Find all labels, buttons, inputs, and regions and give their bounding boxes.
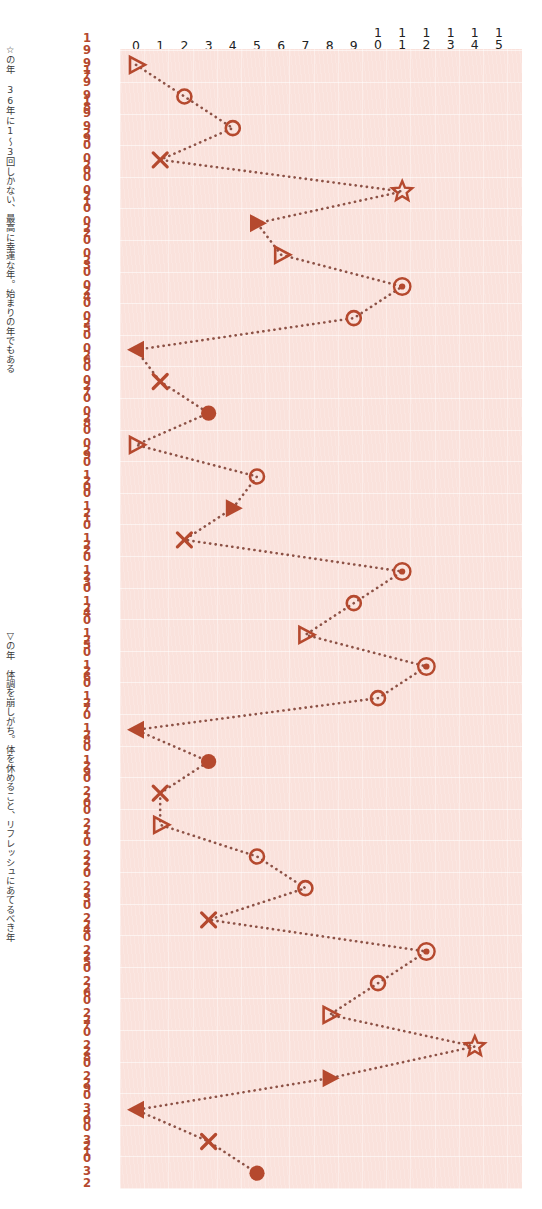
legend-note-star: ☆の年 36年に1〜3回しかない、最高に幸運な年。始まりの年でもある [5, 44, 15, 374]
data-point-double-circle-icon [394, 278, 410, 294]
value-axis: 0123456789101112131415 [116, 6, 536, 50]
x-tick-label: 12 [419, 25, 434, 50]
data-point-open-circle-icon [226, 121, 240, 135]
data-point-filled-triangle-left-icon [127, 721, 144, 739]
series-line-and-markers [120, 49, 522, 1189]
year-label: 2032 [58, 1157, 116, 1189]
data-point-open-triangle-right-icon [130, 57, 145, 73]
data-point-filled-circle-icon [249, 1166, 264, 1181]
x-tick-label: 10 [371, 25, 386, 50]
data-point-double-circle-icon [418, 943, 434, 959]
data-point-double-circle-icon [394, 563, 410, 579]
data-point-open-circle-icon [347, 311, 361, 325]
x-tick-label: 15 [492, 25, 507, 50]
chart-canvas: ☆の年 36年に1〜3回しかない、最高に幸運な年。始まりの年でもある ▽の年 体… [0, 0, 542, 1209]
series-line [136, 65, 475, 1173]
data-point-cross-icon [177, 533, 191, 547]
data-point-cross-icon [202, 1135, 216, 1149]
data-point-filled-triangle-right-icon [226, 499, 243, 517]
x-tick-label: 14 [467, 25, 482, 50]
data-point-open-circle-icon [177, 90, 191, 104]
data-point-filled-triangle-right-icon [323, 1069, 340, 1087]
legend-note-triangle: ▽の年 体調を崩しがち。体を休めること、リフレッシュにあてるべき年 [5, 630, 15, 942]
data-point-filled-triangle-right-icon [250, 214, 267, 232]
x-tick-label: 11 [395, 25, 410, 50]
data-point-filled-circle-icon [201, 754, 216, 769]
data-point-cross-icon [202, 913, 216, 927]
x-tick-label: 13 [443, 25, 458, 50]
data-point-filled-circle-icon [201, 406, 216, 421]
plot-area [120, 49, 522, 1189]
data-point-filled-triangle-left-icon [127, 1101, 144, 1119]
data-point-cross-icon [153, 153, 167, 167]
year-axis: 1997199819992000200120022003200420052006… [58, 49, 116, 1189]
data-point-star-icon [392, 181, 412, 200]
data-point-open-triangle-right-icon [275, 247, 290, 263]
data-point-filled-triangle-left-icon [127, 341, 144, 359]
data-point-double-circle-icon [418, 658, 434, 674]
data-point-cross-icon [153, 375, 167, 389]
